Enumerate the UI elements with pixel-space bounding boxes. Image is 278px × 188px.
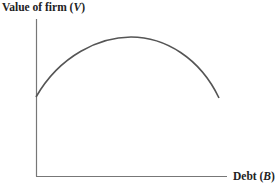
chart-plot-area xyxy=(0,0,278,188)
y-axis-label: Value of firm (V) xyxy=(2,1,85,13)
chart: Value of firm (V) Debt (B) xyxy=(0,0,278,188)
x-axis-label: Debt (B) xyxy=(233,170,275,182)
value-curve xyxy=(36,37,219,98)
